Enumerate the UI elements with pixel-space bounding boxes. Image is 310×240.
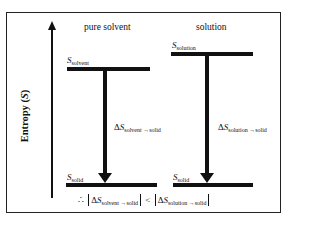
level-label-s-solid-right: Ssolid bbox=[173, 172, 189, 183]
arrow-down-icon bbox=[98, 173, 112, 183]
energy-level-solid-right bbox=[173, 183, 253, 187]
arrow-down-icon bbox=[200, 173, 214, 183]
energy-level-solvent bbox=[67, 67, 150, 71]
column-title-solution: solution bbox=[196, 22, 227, 32]
entropy-axis-line bbox=[51, 28, 53, 198]
arrow-shaft-solution-to-solid bbox=[205, 54, 209, 174]
level-label-s-solution: Ssolution bbox=[172, 40, 196, 51]
energy-level-solid-left bbox=[66, 183, 157, 187]
level-label-s-solvent: Ssolvent bbox=[67, 55, 89, 66]
arrow-shaft-solvent-to-solid bbox=[103, 69, 107, 174]
delta-s-solvent-to-solid-label: ΔSsolvent →solid bbox=[114, 122, 161, 133]
y-axis-label: Entropy (S) bbox=[19, 90, 30, 143]
conclusion-inequality: ∴ ΔSsolvent →solid < ΔSsolution →solid bbox=[78, 194, 211, 206]
level-label-s-solid-left: Ssolid bbox=[67, 172, 83, 183]
column-title-pure-solvent: pure solvent bbox=[84, 22, 131, 32]
energy-level-solution bbox=[171, 52, 253, 56]
axis-arrow-up-icon bbox=[48, 21, 56, 30]
delta-s-solution-to-solid-label: ΔSsolution →solid bbox=[218, 122, 267, 133]
